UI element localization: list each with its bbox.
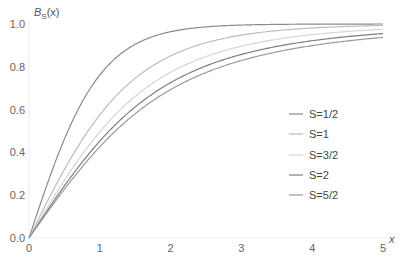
y-tick-label: 0.2	[10, 189, 25, 201]
brillouin-chart: 0123450.00.20.40.60.81.0 S=1/2S=1S=3/2S=…	[0, 0, 402, 264]
y-tick-label: 0.0	[10, 232, 25, 244]
legend-label: S=1/2	[309, 108, 338, 120]
legend-item: S=2	[289, 169, 329, 181]
y-tick-label: 0.6	[10, 104, 25, 116]
legend-label: S=1	[309, 128, 329, 140]
legend: S=1/2S=1S=3/2S=2S=5/2	[289, 108, 338, 201]
legend-item: S=1	[289, 128, 329, 140]
x-axis-title: x	[388, 233, 395, 245]
y-tick-label: 1.0	[10, 18, 25, 30]
x-tick-label: 4	[309, 242, 315, 254]
y-axis-title: BS(x)	[34, 6, 60, 21]
x-tick-label: 2	[168, 242, 174, 254]
curve-s-1	[29, 25, 383, 238]
x-tick-label: 5	[380, 242, 386, 254]
legend-item: S=1/2	[289, 108, 338, 120]
x-tick-label: 3	[238, 242, 244, 254]
y-tick-label: 0.4	[10, 146, 25, 158]
legend-item: S=3/2	[289, 149, 338, 161]
legend-item: S=5/2	[289, 189, 338, 201]
legend-label: S=2	[309, 169, 329, 181]
curve-s-5-2	[29, 37, 383, 238]
legend-label: S=3/2	[309, 149, 338, 161]
curve-s-2	[29, 34, 383, 238]
curve-s-3-2	[29, 29, 383, 238]
curves	[29, 24, 383, 238]
x-tick-label: 0	[26, 242, 32, 254]
y-tick-label: 0.8	[10, 61, 25, 73]
legend-label: S=5/2	[309, 189, 338, 201]
x-tick-label: 1	[97, 242, 103, 254]
